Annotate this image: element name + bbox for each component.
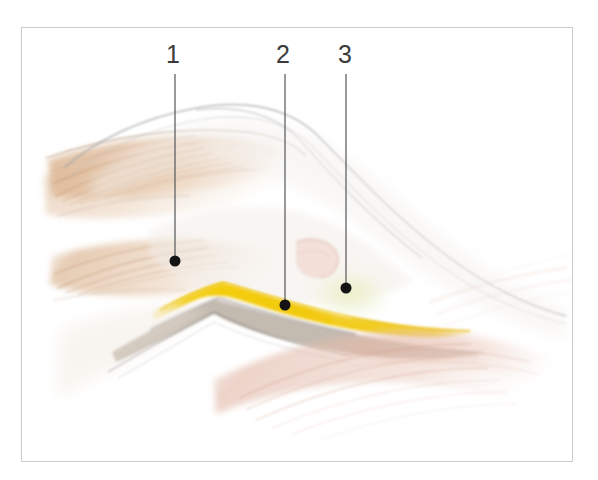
figure-root: 1 2 3 bbox=[0, 0, 598, 480]
callout-label-2: 2 bbox=[276, 42, 290, 67]
callout-label-1: 1 bbox=[166, 42, 180, 67]
figure-frame bbox=[21, 27, 573, 462]
callout-label-3: 3 bbox=[338, 42, 352, 67]
